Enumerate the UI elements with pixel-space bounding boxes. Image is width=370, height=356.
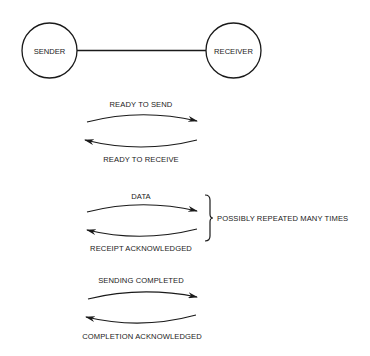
backward-message-label: RECEIPT ACKNOWLEDGED bbox=[90, 244, 192, 253]
sender-label: SENDER bbox=[34, 47, 66, 56]
forward-arrow bbox=[87, 205, 197, 212]
forward-message-label: SENDING COMPLETED bbox=[98, 276, 184, 285]
sender-node: SENDER bbox=[22, 23, 77, 78]
backward-message-label: READY TO RECEIVE bbox=[103, 155, 178, 164]
repeat-annotation: POSSIBLY REPEATED MANY TIMES bbox=[217, 214, 348, 223]
handshake-diagram: SENDER RECEIVER READY TO SEND READY TO R… bbox=[0, 0, 370, 356]
backward-message-label: COMPLETION ACKNOWLEDGED bbox=[82, 332, 202, 341]
exchange-completion: SENDING COMPLETED COMPLETION ACKNOWLEDGE… bbox=[82, 276, 202, 341]
exchange-data: DATA RECEIPT ACKNOWLEDGED bbox=[87, 192, 197, 253]
forward-arrow bbox=[87, 115, 197, 122]
forward-arrow bbox=[88, 292, 197, 299]
backward-arrow bbox=[85, 140, 197, 147]
forward-message-label: READY TO SEND bbox=[110, 100, 173, 109]
forward-message-label: DATA bbox=[131, 192, 151, 201]
exchange-ready: READY TO SEND READY TO RECEIVE bbox=[85, 100, 197, 164]
repeat-brace-icon bbox=[205, 195, 213, 241]
backward-arrow bbox=[87, 229, 197, 236]
receiver-label: RECEIVER bbox=[214, 47, 253, 56]
receiver-node: RECEIVER bbox=[206, 23, 261, 78]
backward-arrow bbox=[86, 315, 196, 323]
